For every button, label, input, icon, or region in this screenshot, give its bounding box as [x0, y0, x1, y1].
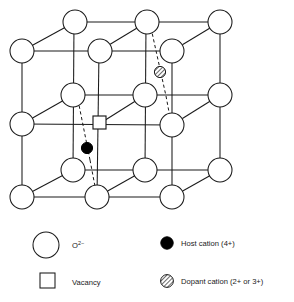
lattice-node-anion [160, 39, 184, 63]
legend-label-dopant-cation: Dopant cation (2+ or 3+) [181, 277, 264, 286]
lattice-node-anion [88, 39, 112, 63]
filled-circle-icon [161, 237, 173, 249]
legend-label-host-cation: Host cation (4+) [181, 239, 235, 248]
legend: O2− Host cation (4+) Vacancy Dopant cati… [33, 232, 264, 288]
lattice-node-anion [208, 83, 232, 107]
legend-item-anion: O2− [33, 232, 84, 258]
dopant-cation-marker [154, 66, 165, 77]
lattice-node-anion [10, 185, 34, 209]
hatched-circle-icon [161, 275, 174, 288]
lattice-node-anion [61, 83, 85, 107]
open-square-icon [40, 273, 55, 288]
legend-label-vacancy: Vacancy [72, 278, 101, 287]
lattice-node-anion [61, 158, 85, 182]
legend-label-anion: O2− [72, 240, 84, 250]
lattice-node-anion [10, 39, 34, 63]
lattice-node-anion [85, 185, 109, 209]
host-cation-marker [81, 142, 92, 153]
lattice-node-anion [208, 158, 232, 182]
lattice-node-anion [135, 10, 159, 34]
lattice-node-anion [10, 112, 34, 136]
legend-item-vacancy: Vacancy [40, 273, 101, 288]
lattice-node-anion [160, 113, 184, 137]
lattice-node-anion [63, 10, 87, 34]
lattice-node-anion [133, 158, 157, 182]
open-circle-icon [33, 232, 59, 258]
lattice-node-anion [133, 83, 157, 107]
legend-item-dopant-cation: Dopant cation (2+ or 3+) [161, 275, 264, 288]
legend-item-host-cation: Host cation (4+) [161, 237, 235, 249]
lattice-node-anion [160, 185, 184, 209]
lattice-bond-network [22, 22, 220, 197]
crystal-lattice-figure: O2− Host cation (4+) Vacancy Dopant cati… [0, 0, 294, 302]
vacancy-marker [93, 116, 106, 129]
lattice-diagram-svg: O2− Host cation (4+) Vacancy Dopant cati… [0, 0, 294, 302]
lattice-node-anion [208, 10, 232, 34]
